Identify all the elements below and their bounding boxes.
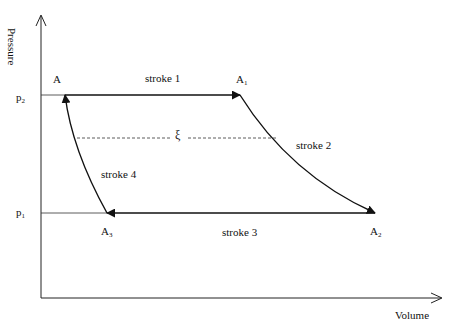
point-A3-label: A3 (101, 225, 112, 241)
x-axis (41, 293, 442, 303)
p2-tick-label: p2 (16, 91, 25, 107)
y-axis-label: Pressure (6, 28, 18, 65)
stroke-4-path (65, 95, 107, 213)
point-A2-label: A2 (370, 225, 381, 241)
pv-diagram (0, 0, 456, 333)
stroke-2-label: stroke 2 (296, 139, 331, 151)
point-A1-label: A1 (236, 73, 247, 89)
stroke-4-label: stroke 4 (101, 168, 136, 180)
y-axis (36, 15, 46, 298)
p1-tick-label: p1 (16, 206, 25, 222)
x-axis-label: Volume (395, 309, 429, 321)
stroke-1-label: stroke 1 (145, 72, 180, 84)
stroke-3-label: stroke 3 (222, 226, 257, 238)
stroke-2-path (240, 95, 375, 213)
point-A-label: A (53, 73, 61, 89)
xi-label: ξ (175, 129, 180, 141)
